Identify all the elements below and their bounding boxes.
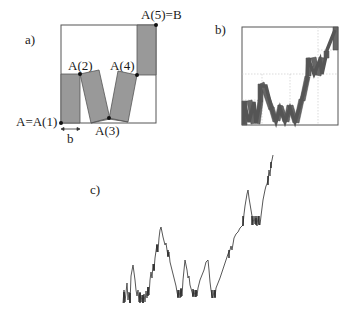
panel-c-curve [0, 0, 355, 316]
